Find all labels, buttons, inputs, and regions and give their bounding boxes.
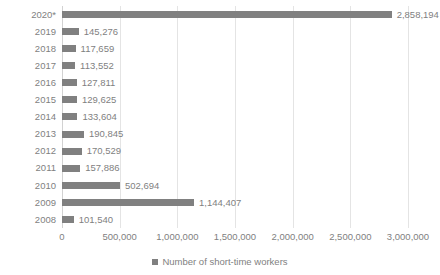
bar <box>62 45 76 52</box>
bar-value-label: 2,858,194 <box>397 10 439 20</box>
bar <box>62 62 75 69</box>
x-axis: 0500,0001,000,0001,500,0002,000,0002,500… <box>62 232 408 246</box>
bar-rows: 2020*2,858,1942019145,2762018117,6592017… <box>62 6 408 228</box>
bar-row: 2019145,276 <box>62 23 408 40</box>
bar-row: 2015129,625 <box>62 91 408 108</box>
bar <box>62 113 77 120</box>
category-label: 2010 <box>35 181 56 191</box>
category-label: 2018 <box>35 44 56 54</box>
x-axis-tick-label: 1,000,000 <box>156 232 198 242</box>
bar <box>62 28 79 35</box>
category-label: 2009 <box>35 198 56 208</box>
legend-square-marker-icon <box>152 259 158 265</box>
x-axis-tick-label: 1,500,000 <box>214 232 256 242</box>
bar <box>62 199 194 206</box>
chart-legend: Number of short-time workers <box>0 257 440 267</box>
bar <box>62 182 120 189</box>
bar-value-label: 101,540 <box>79 215 113 225</box>
legend-label: Number of short-time workers <box>162 257 287 267</box>
category-label: 2020* <box>31 10 56 20</box>
bar-value-label: 133,604 <box>82 112 116 122</box>
bar-row: 2016127,811 <box>62 74 408 91</box>
category-label: 2008 <box>35 215 56 225</box>
category-label: 2014 <box>35 112 56 122</box>
bar <box>62 148 82 155</box>
x-axis-tick-label: 0 <box>59 232 64 242</box>
bar <box>62 96 77 103</box>
bar-value-label: 502,694 <box>125 181 159 191</box>
bar-row: 2013190,845 <box>62 126 408 143</box>
category-label: 2013 <box>35 129 56 139</box>
category-label: 2011 <box>36 163 56 173</box>
bar-row: 2017113,552 <box>62 57 408 74</box>
bar-chart: 2020*2,858,1942019145,2762018117,6592017… <box>0 0 440 275</box>
x-axis-tick-label: 3,000,000 <box>387 232 429 242</box>
category-label: 2012 <box>35 146 56 156</box>
category-label: 2017 <box>35 61 56 71</box>
bar-row: 2010502,694 <box>62 177 408 194</box>
bar <box>62 131 84 138</box>
bar-row: 2011157,886 <box>62 160 408 177</box>
bar-value-label: 113,552 <box>80 61 114 71</box>
bar-row: 2018117,659 <box>62 40 408 57</box>
bar-value-label: 190,845 <box>89 129 123 139</box>
bar <box>62 79 77 86</box>
bar-value-label: 117,659 <box>81 44 115 54</box>
plot-area: 2020*2,858,1942019145,2762018117,6592017… <box>62 6 408 228</box>
bar-row: 2020*2,858,194 <box>62 6 408 23</box>
bar-value-label: 129,625 <box>82 95 116 105</box>
bar-row: 20091,144,407 <box>62 194 408 211</box>
bar-value-label: 1,144,407 <box>199 198 241 208</box>
bar-value-label: 170,529 <box>87 146 121 156</box>
x-axis-tick-label: 2,500,000 <box>329 232 371 242</box>
bar-value-label: 127,811 <box>82 78 116 88</box>
category-label: 2016 <box>35 78 56 88</box>
bar <box>62 11 392 18</box>
category-label: 2019 <box>35 27 56 37</box>
bar-row: 2012170,529 <box>62 143 408 160</box>
bar-row: 2014133,604 <box>62 108 408 125</box>
bar <box>62 165 80 172</box>
bar-row: 2008101,540 <box>62 211 408 228</box>
bar-value-label: 157,886 <box>85 163 119 173</box>
bar <box>62 216 74 223</box>
gridline <box>408 6 409 228</box>
category-label: 2015 <box>35 95 56 105</box>
x-axis-tick-label: 2,000,000 <box>272 232 314 242</box>
x-axis-tick-label: 500,000 <box>102 232 136 242</box>
bar-value-label: 145,276 <box>84 27 118 37</box>
